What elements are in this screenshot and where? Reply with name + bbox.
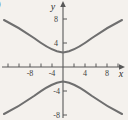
y-tick-label: -4 xyxy=(53,87,60,96)
x-tick-label: -8 xyxy=(27,69,34,78)
x-tick-label: 4 xyxy=(83,69,87,78)
y-tick-label: 4 xyxy=(54,39,58,48)
y-axis-label: y xyxy=(50,1,56,12)
x-tick-label: -4 xyxy=(49,69,56,78)
x-axis-label: x xyxy=(118,68,124,79)
graph-canvas: y x -8 -4 4 8 8 4 -4 -8 xyxy=(0,0,128,120)
hyperbola-figure: ) xyxy=(0,0,128,120)
y-tick-label: -8 xyxy=(53,111,60,120)
y-tick-label: 8 xyxy=(54,15,58,24)
x-tick-label: 8 xyxy=(105,69,109,78)
y-axis-arrow-icon xyxy=(60,1,66,7)
